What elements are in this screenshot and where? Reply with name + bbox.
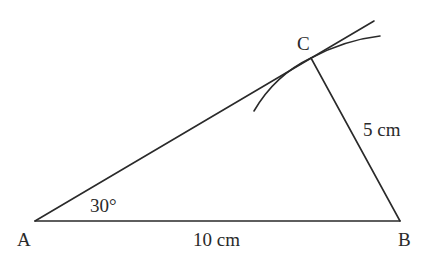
diagram-svg: A B C 30° 10 cm 5 cm [0,0,436,272]
construction-arc [254,36,380,111]
side-ab-label: 10 cm [193,229,240,250]
ray-ac [35,21,374,221]
triangle-diagram: A B C 30° 10 cm 5 cm [0,0,436,272]
point-a-label: A [17,229,31,250]
angle-a-label: 30° [90,195,117,216]
point-b-label: B [398,229,411,250]
side-bc-label: 5 cm [363,119,401,140]
point-c-label: C [297,33,310,54]
